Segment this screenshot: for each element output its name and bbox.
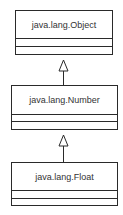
methods-divider bbox=[16, 46, 112, 47]
attributes-divider bbox=[16, 38, 112, 39]
methods-divider bbox=[12, 121, 117, 122]
attributes-divider bbox=[12, 190, 117, 191]
class-box-float: java.lang.Float bbox=[11, 162, 118, 206]
class-name: java.lang.Float bbox=[12, 163, 117, 190]
class-name: java.lang.Number bbox=[12, 86, 117, 114]
class-box-number: java.lang.Number bbox=[11, 85, 118, 130]
class-name: java.lang.Object bbox=[16, 11, 112, 38]
methods-divider bbox=[12, 198, 117, 199]
arrow-float-to-number bbox=[59, 135, 68, 162]
attributes-divider bbox=[12, 114, 117, 115]
class-box-object: java.lang.Object bbox=[15, 10, 113, 55]
arrow-number-to-object bbox=[59, 60, 68, 85]
